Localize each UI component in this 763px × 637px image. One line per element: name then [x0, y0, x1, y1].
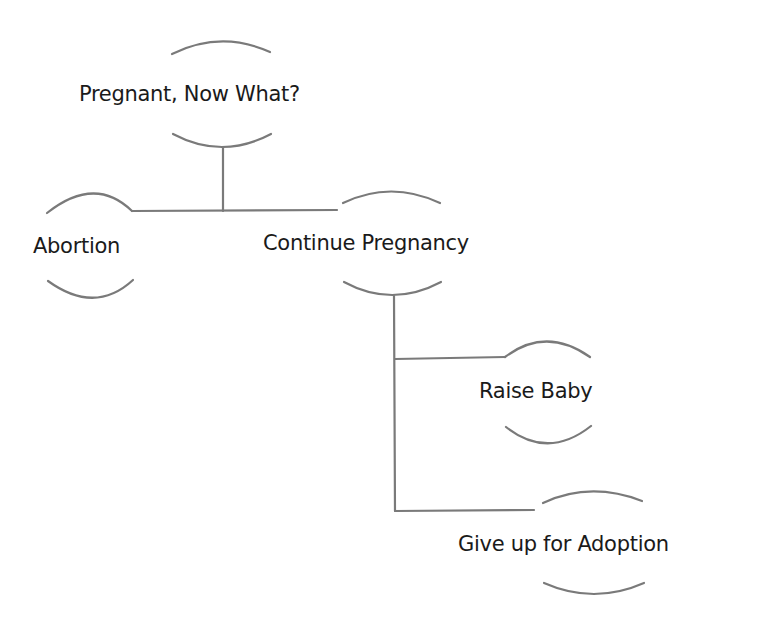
- continue-node-label: Continue Pregnancy: [263, 233, 469, 254]
- raise-node-label: Raise Baby: [479, 381, 592, 402]
- raise-node-bottom-arc: [506, 426, 591, 443]
- abortion-node-top-arc: [47, 193, 132, 213]
- abortion-node-bottom-arc: [48, 280, 133, 298]
- continue-node-bottom-arc: [344, 282, 441, 295]
- continue-trunk-line: [394, 296, 395, 511]
- decision-tree-diagram: Pregnant, Now What? Abortion Continue Pr…: [0, 0, 763, 637]
- adoption-node-label: Give up for Adoption: [458, 534, 669, 555]
- abortion-node-label: Abortion: [33, 236, 120, 257]
- raise-branch-line: [395, 357, 505, 359]
- raise-node-top-arc: [505, 342, 590, 358]
- adoption-node-top-arc: [543, 491, 642, 503]
- root-node-bottom-arc: [173, 134, 271, 147]
- continue-node-top-arc: [343, 192, 440, 204]
- root-node-top-arc: [172, 41, 270, 54]
- adoption-branch-line: [395, 510, 534, 511]
- adoption-node-bottom-arc: [544, 583, 644, 594]
- level1-bar-line: [132, 210, 337, 211]
- root-node-label: Pregnant, Now What?: [79, 84, 300, 105]
